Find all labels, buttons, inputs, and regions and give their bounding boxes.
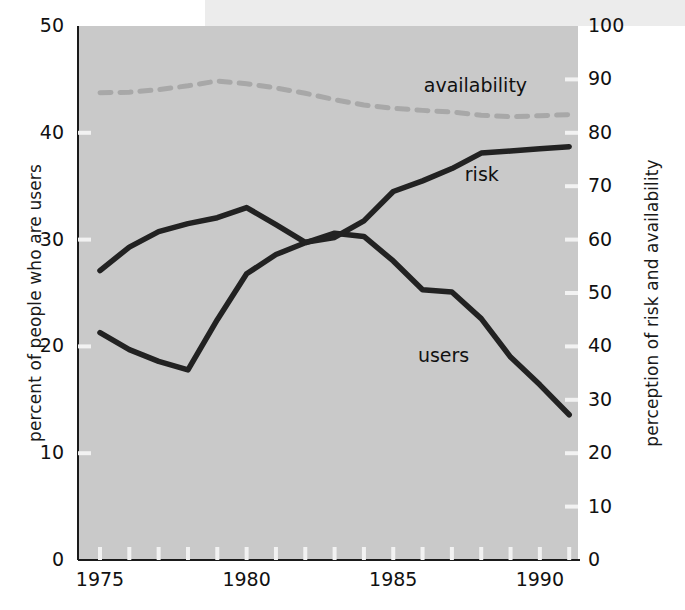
data-series-group	[100, 81, 569, 415]
y-tick-label-right: 100	[588, 14, 634, 36]
x-tick-label: 1980	[212, 568, 282, 590]
y-tick-label-right: 60	[588, 228, 634, 250]
series-line-users	[100, 233, 569, 415]
y-tick-label-left: 0	[22, 548, 64, 570]
y-tick-label-right: 70	[588, 174, 634, 196]
y-tick-label-right: 20	[588, 441, 634, 463]
x-tick-label: 1975	[65, 568, 135, 590]
chart-figure: 01020304050 0102030405060708090100 19751…	[0, 0, 685, 610]
y-axis-right-title: perception of risk and availability	[642, 133, 662, 473]
series-line-risk	[100, 147, 569, 271]
series-label-availability: availability	[424, 74, 527, 96]
y-tick-label-right: 0	[588, 548, 634, 570]
y-tick-label-right: 90	[588, 67, 634, 89]
chart-canvas	[0, 0, 685, 610]
y-tick-label-right: 80	[588, 121, 634, 143]
series-label-users: users	[418, 344, 469, 366]
y-axis-left-title: percent of people who are users	[25, 133, 45, 473]
y-tick-label-right: 10	[588, 495, 634, 517]
y-tick-label-left: 50	[22, 14, 64, 36]
series-label-risk: risk	[465, 163, 499, 185]
x-tick-label: 1985	[358, 568, 428, 590]
y-tick-label-right: 40	[588, 334, 634, 356]
axes-group	[78, 26, 580, 560]
x-tick-label: 1990	[505, 568, 575, 590]
y-tick-label-right: 50	[588, 281, 634, 303]
y-tick-label-right: 30	[588, 388, 634, 410]
